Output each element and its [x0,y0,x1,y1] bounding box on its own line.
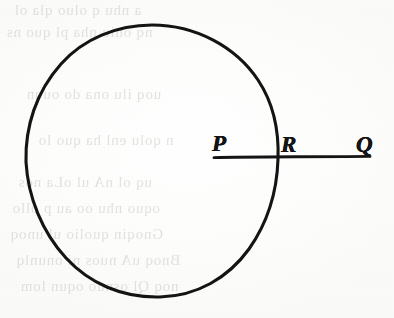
figure-canvas [0,0,394,318]
geometry-figure: a nhu q oluo qla ol nq oniu nha pl quo n… [0,0,394,318]
point-label-p: P [212,132,226,155]
point-label-q: Q [356,133,373,156]
circle-shape [26,25,278,297]
point-label-r: R [281,133,296,156]
